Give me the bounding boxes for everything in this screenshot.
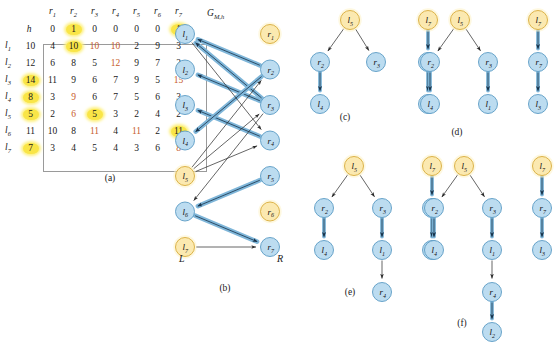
node-l7[interactable]: l7 [526, 8, 549, 31]
node-l4[interactable]: l4 [315, 241, 334, 260]
matrix-cell-6-4: 4 [105, 123, 126, 140]
matrix-cell-5-3: 5 [84, 106, 105, 123]
node-l3[interactable]: l3 [176, 96, 195, 115]
matrix-col-header-r4: r4 [105, 4, 126, 21]
row-h-value-l2: 12 [19, 55, 42, 72]
edge-l5-to-r2 [438, 29, 454, 51]
edge-l5-to-r3 [360, 175, 375, 197]
matrix-cell-3-5: 9 [126, 72, 147, 89]
matrix-row-label-l5: l5 [0, 106, 19, 123]
node-r3[interactable]: r3 [373, 199, 392, 218]
matrix-row-label-l4: l4 [0, 89, 19, 106]
h-value-r2: 1 [63, 21, 84, 38]
node-l4[interactable]: l4 [311, 95, 330, 114]
node-r2[interactable]: r2 [311, 53, 330, 72]
matrix-cell-4-5: 5 [126, 89, 147, 106]
h-value-r5: 0 [126, 21, 147, 38]
node-r7[interactable]: r7 [529, 53, 548, 72]
node-l2[interactable]: l2 [483, 323, 502, 342]
matrix-row-label-l1: l1 [0, 38, 19, 55]
caption-d: (d) [437, 127, 477, 137]
caption-c: (c) [325, 112, 365, 122]
matrix-cell-6-2: 8 [63, 123, 84, 140]
matrix-cell-6-5: 11 [126, 123, 147, 140]
edge-l5-to-r3 [470, 175, 485, 197]
panel-b-bipartite-graph: GM,h l1l2l3l4l5l6l7r1r2r3r4r5r6r7 L R [155, 0, 300, 300]
panel-e-trees: l5r2r3l4l1r4l7r7l3 [300, 152, 410, 337]
node-r3[interactable]: r3 [483, 199, 502, 218]
matrix-row-label-l3: l3 [0, 72, 19, 89]
matrix-col-header-r1: r1 [42, 4, 63, 21]
edge-l5-to-r2 [442, 175, 458, 197]
matrix-cell-2-1: 6 [42, 55, 63, 72]
matrix-cell-6-3: 11 [84, 123, 105, 140]
node-l5[interactable]: l5 [452, 154, 475, 177]
node-l1[interactable]: l1 [483, 241, 502, 260]
node-l5[interactable]: l5 [342, 154, 365, 177]
node-l4[interactable]: l4 [176, 131, 195, 150]
node-l2[interactable]: l2 [176, 60, 195, 79]
matrix-cell-7-5: 3 [126, 140, 147, 157]
left-set-label: L [179, 253, 185, 264]
h-symbol: h [19, 21, 42, 38]
node-r3[interactable]: r3 [479, 53, 498, 72]
node-r2[interactable]: r2 [261, 60, 280, 79]
node-r4[interactable]: r4 [373, 283, 392, 302]
caption-f: (f) [442, 318, 482, 328]
matrix-cell-5-2: 6 [63, 106, 84, 123]
matrix-row-label-l6: l6 [0, 123, 19, 140]
node-l1[interactable]: l1 [373, 241, 392, 260]
node-l4[interactable]: l4 [425, 241, 444, 260]
node-r7[interactable]: r7 [533, 199, 552, 218]
matrix-row-label-l7: l7 [0, 140, 19, 157]
node-l4[interactable]: l4 [421, 95, 440, 114]
node-l5[interactable]: l5 [448, 8, 471, 31]
node-r1[interactable]: r1 [258, 22, 281, 45]
row-h-value-l1: 10 [19, 38, 42, 55]
node-l3[interactable]: l3 [533, 241, 552, 260]
matrix-cell-7-4: 4 [105, 140, 126, 157]
row-h-value-l5: 5 [19, 106, 42, 123]
matrix-cell-2-3: 5 [84, 55, 105, 72]
node-r4[interactable]: r4 [261, 131, 280, 150]
node-r3[interactable]: r3 [261, 96, 280, 115]
node-l1[interactable]: l1 [176, 25, 195, 44]
right-set-label: R [277, 253, 283, 264]
edge-l5-to-r2 [328, 29, 344, 51]
node-l5[interactable]: l5 [338, 8, 361, 31]
node-r6[interactable]: r6 [258, 200, 281, 223]
node-l7[interactable]: l7 [530, 154, 553, 177]
node-r3[interactable]: r3 [367, 53, 386, 72]
node-r2[interactable]: r2 [421, 53, 440, 72]
row-h-value-l3: 14 [19, 72, 42, 89]
h-value-r1: 0 [42, 21, 63, 38]
edge-l5-to-r4 [195, 146, 257, 172]
matrix-cell-3-2: 9 [63, 72, 84, 89]
bipartite-svg: l1l2l3l4l5l6l7r1r2r3r4r5r6r7 [155, 18, 300, 293]
matrix-cell-6-1: 10 [42, 123, 63, 140]
node-r2[interactable]: r2 [315, 199, 334, 218]
node-l6[interactable]: l6 [176, 202, 195, 221]
node-r2[interactable]: r2 [425, 199, 444, 218]
node-l1[interactable]: l1 [479, 95, 498, 114]
node-l3[interactable]: l3 [529, 95, 548, 114]
node-r4[interactable]: r4 [483, 283, 502, 302]
matrix-cell-4-4: 7 [105, 89, 126, 106]
matrix-cell-1-2: 10 [63, 38, 84, 55]
panel-f-trees: l5r2r3l4l1r4l2l7r7l3 [410, 152, 525, 337]
matrix-cell-3-4: 7 [105, 72, 126, 89]
matrix-cell-7-3: 5 [84, 140, 105, 157]
edge-l5-to-r3 [356, 29, 369, 51]
matrix-col-header-r2: r2 [63, 4, 84, 21]
node-r5[interactable]: r5 [261, 167, 280, 186]
panel-f-svg: l5r2r3l4l1r4l2l7r7l3 [410, 152, 558, 346]
caption-b: (b) [195, 283, 255, 293]
caption-a: (a) [80, 173, 140, 183]
matrix-cell-1-3: 10 [84, 38, 105, 55]
node-l7[interactable]: l7 [173, 235, 196, 258]
panel-d-trees: l5r2r3l4l1l7r7l3 [406, 6, 524, 146]
node-l5[interactable]: l5 [173, 164, 196, 187]
edge-l6-to-r7-arrow [195, 216, 257, 242]
row-h-value-l6: 11 [19, 123, 42, 140]
